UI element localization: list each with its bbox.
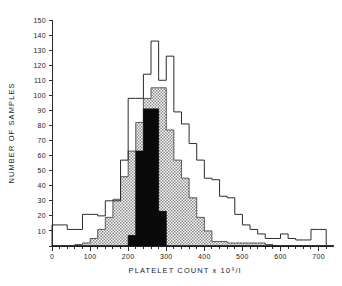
y-tick-label: 120 (33, 62, 46, 69)
y-tick-label: 110 (34, 77, 46, 84)
x-tick-label: 500 (236, 253, 249, 260)
y-tick-label: 60 (38, 152, 46, 159)
y-axis-tick-marks (49, 20, 53, 246)
series-hatched-subset (52, 88, 334, 246)
chart-canvas: 102030405060708090100110120130140150 010… (0, 0, 342, 286)
x-tick-label: 200 (122, 253, 135, 260)
x-tick-label: 300 (160, 253, 173, 260)
x-axis-title: PLATELET COUNT x 10⁹/l (129, 266, 242, 275)
x-tick-label: 700 (312, 253, 325, 260)
y-tick-label: 70 (38, 137, 46, 144)
x-tick-label: 400 (198, 253, 211, 260)
y-tick-label: 150 (33, 17, 46, 24)
y-tick-label: 80 (38, 122, 46, 129)
y-tick-label: 10 (38, 228, 46, 235)
x-axis-tick-labels: 0100200300400500600700 (50, 253, 325, 260)
x-tick-label: 600 (274, 253, 287, 260)
y-axis-tick-labels: 102030405060708090100110120130140150 (33, 17, 46, 235)
histogram-figure: 102030405060708090100110120130140150 010… (0, 0, 342, 286)
y-tick-label: 90 (38, 107, 46, 114)
y-tick-label: 100 (33, 92, 46, 99)
y-tick-label: 40 (38, 182, 46, 189)
x-tick-label: 100 (84, 253, 97, 260)
y-tick-label: 50 (38, 167, 46, 174)
x-tick-label: 0 (50, 253, 54, 260)
y-axis-title: NUMBER OF SAMPLES (7, 82, 16, 183)
y-tick-label: 30 (38, 197, 46, 204)
y-tick-label: 20 (38, 212, 46, 219)
y-tick-label: 130 (33, 47, 46, 54)
x-axis-tick-marks (52, 246, 326, 251)
y-tick-label: 140 (33, 32, 46, 39)
